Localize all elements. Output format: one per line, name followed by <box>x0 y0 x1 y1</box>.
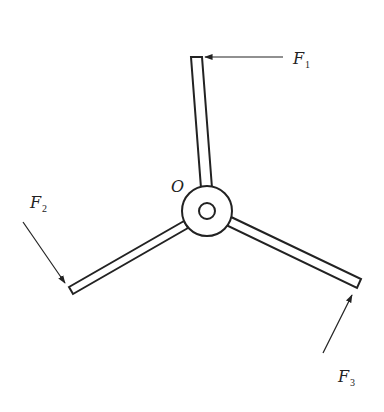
force-label-f2: F2 <box>29 193 47 214</box>
arm-left <box>69 221 188 294</box>
arm-top <box>191 57 212 188</box>
pivot-label-O: O <box>171 177 184 196</box>
force-arrow-f3 <box>323 295 352 353</box>
hub-inner-circle <box>199 203 215 219</box>
force-label-f3: F3 <box>337 367 355 388</box>
arm-right <box>226 216 361 288</box>
force-diagram: O F1F2F3 <box>0 0 384 412</box>
pivot-hub <box>182 186 232 236</box>
force-label-f1: F1 <box>292 49 310 70</box>
rod-arms <box>69 57 361 294</box>
force-arrow-f2 <box>23 222 65 283</box>
